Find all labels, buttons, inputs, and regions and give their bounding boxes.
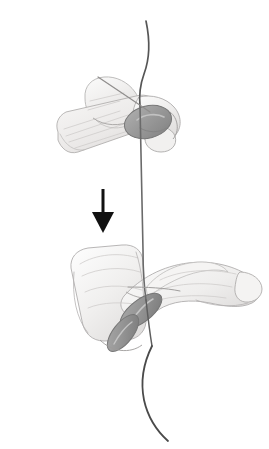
arrow-shaft	[102, 189, 105, 215]
figure-background	[0, 0, 269, 449]
illustration-figure: Grayscale pencil illustration: an upper …	[0, 0, 269, 449]
illustration-canvas	[0, 0, 269, 449]
